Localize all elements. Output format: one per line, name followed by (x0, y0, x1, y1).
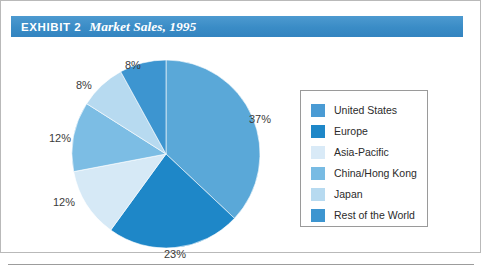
page-title: Market Sales, 1995 (89, 19, 196, 35)
chart-plot-area: 37%23%12%12%8%8% United StatesEuropeAsia… (1, 41, 482, 253)
legend-swatch-icon (311, 125, 325, 138)
legend-swatch-icon (311, 146, 325, 159)
pie-percentage-label: 8% (125, 59, 141, 71)
legend-item: United States (311, 100, 427, 120)
legend-swatch-icon (311, 188, 325, 201)
pie-percentage-label: 23% (164, 248, 186, 260)
legend-item-label: Europe (334, 125, 368, 137)
legend-swatch-icon (311, 209, 325, 222)
legend-item: Rest of the World (311, 205, 427, 225)
footer-divider (8, 264, 474, 265)
pie-percentage-label: 12% (49, 132, 71, 144)
exhibit-number-label: EXHIBIT 2 (21, 21, 81, 33)
legend-item: China/Hong Kong (311, 163, 427, 183)
exhibit-frame: EXHIBIT 2 Market Sales, 1995 37%23%12%12… (0, 0, 481, 253)
legend-item-label: United States (334, 104, 397, 116)
legend-item: Europe (311, 121, 427, 141)
pie-slice-group (72, 60, 260, 248)
chart-legend: United StatesEuropeAsia-PacificChina/Hon… (300, 90, 428, 227)
legend-item-label: China/Hong Kong (334, 167, 417, 179)
legend-item: Japan (311, 184, 427, 204)
legend-item-label: Asia-Pacific (334, 146, 389, 158)
pie-percentage-label: 8% (76, 79, 92, 91)
legend-swatch-icon (311, 104, 325, 117)
pie-percentage-label: 12% (53, 196, 75, 208)
pie-percentage-label: 37% (249, 113, 271, 125)
legend-swatch-icon (311, 167, 325, 180)
legend-item-label: Rest of the World (334, 209, 415, 221)
exhibit-title-bar: EXHIBIT 2 Market Sales, 1995 (11, 16, 463, 37)
pie-chart (71, 59, 261, 249)
legend-item: Asia-Pacific (311, 142, 427, 162)
pie-chart-svg (71, 59, 261, 249)
legend-item-label: Japan (334, 188, 363, 200)
